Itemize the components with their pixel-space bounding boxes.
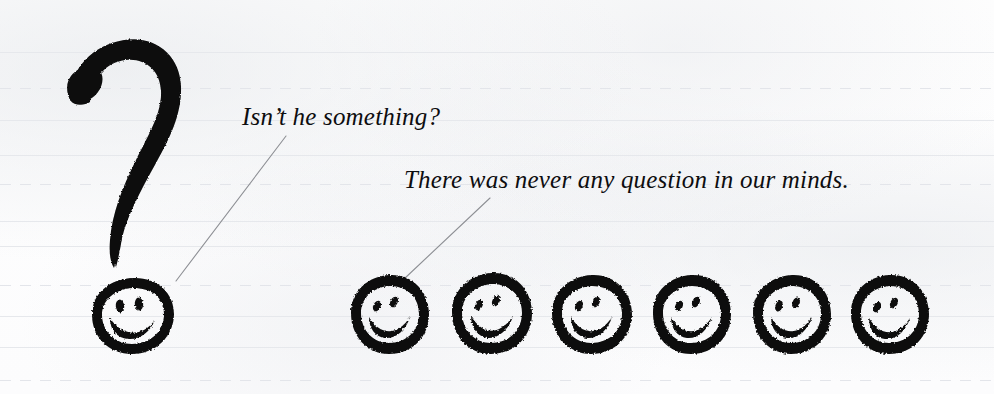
- caption-there-was-never-any-question: There was never any question in our mind…: [404, 166, 849, 194]
- smiley-row-5: [753, 275, 831, 354]
- caption-isnt-he-something: Isn’t he something?: [242, 103, 440, 131]
- smiley-row-3: [552, 275, 632, 354]
- question-mark-glyph: [67, 39, 181, 268]
- smiley-row-1: [351, 275, 429, 354]
- smiley-large: [92, 278, 174, 354]
- illustration-page: Isn’t he something? There was never any …: [0, 0, 994, 394]
- smiley-row-4: [653, 275, 731, 354]
- leader-line-2: [404, 198, 490, 279]
- artwork-svg: [0, 0, 994, 394]
- smiley-row-group: [351, 273, 929, 354]
- ink-artwork-layer: [0, 0, 994, 394]
- leader-line-1: [176, 136, 286, 281]
- smiley-row-2: [452, 273, 532, 354]
- smiley-row-6: [851, 275, 929, 354]
- leader-lines-group: [176, 136, 490, 281]
